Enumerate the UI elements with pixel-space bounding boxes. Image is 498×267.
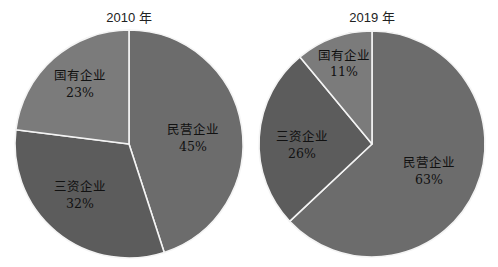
pie-chart-2010: 2010 年 民营企业 45% 三资企业 32% 国有企业 23% (15, 10, 243, 258)
slice-label-state-2010: 国有企业 (54, 68, 106, 83)
pie-charts-figure: 2010 年 民营企业 45% 三资企业 32% 国有企业 23% 2019 年… (0, 0, 498, 267)
slice-pct-private-2010: 45% (179, 139, 207, 154)
slice-label-foreign-2010: 三资企业 (54, 179, 106, 194)
pie-chart-2019: 2019 年 民营企业 63% 三资企业 26% 国有企业 11% (259, 10, 485, 257)
slice-label-private-2010: 民营企业 (167, 122, 219, 137)
slice-pct-foreign-2010: 32% (66, 196, 94, 211)
slice-label-foreign-2019: 三资企业 (276, 129, 328, 144)
slice-pct-foreign-2019: 26% (288, 146, 316, 161)
chart-title-2010: 2010 年 (106, 10, 152, 25)
slice-pct-state-2019: 11% (330, 64, 358, 79)
slice-pct-state-2010: 23% (66, 85, 94, 100)
chart-title-2019: 2019 年 (349, 10, 395, 25)
slice-label-state-2019: 国有企业 (318, 48, 370, 63)
pie-right-slices (259, 31, 485, 257)
pie-left-slices (15, 30, 243, 258)
slice-pct-private-2019: 63% (415, 172, 443, 187)
slice-label-private-2019: 民营企业 (403, 155, 455, 170)
